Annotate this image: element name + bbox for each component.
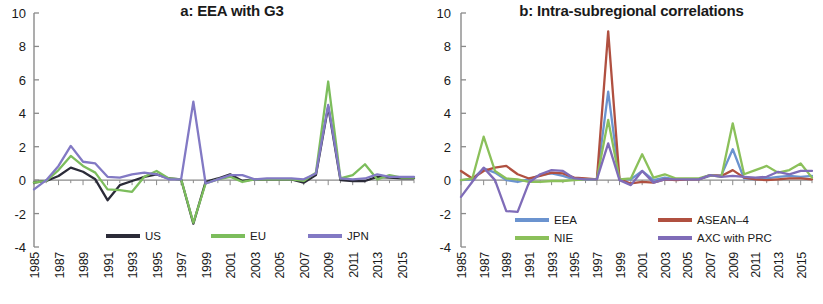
series-line-axc-with-prc	[461, 143, 812, 212]
x-tick-label: 1993	[126, 252, 140, 279]
y-tick-label: -4	[439, 240, 451, 255]
x-tick-label: 1995	[568, 252, 582, 279]
x-tick-label: 2001	[636, 252, 650, 279]
legend-item: NIE	[515, 232, 573, 244]
series-line-eu	[34, 82, 414, 223]
x-tick-label: 2009	[727, 252, 741, 279]
legend-swatch-line	[106, 234, 140, 238]
x-tick-label: 2007	[704, 252, 718, 279]
y-tick-label: 4	[444, 106, 451, 121]
x-tick-label: 2009	[322, 252, 336, 279]
legend-swatch-line	[515, 218, 549, 222]
panel-a-y-axis-labels: 1086420-2-4	[0, 0, 26, 260]
legend-item: JPN	[308, 230, 369, 242]
y-tick-label: 0	[19, 173, 26, 188]
panel-a-plot	[26, 5, 418, 255]
y-tick-label: 6	[19, 72, 26, 87]
legend-label: ASEAN–4	[697, 214, 749, 226]
x-tick-label: 1991	[523, 252, 537, 279]
legend-item: AXC with PRC	[658, 232, 772, 244]
x-tick-label: 2013	[772, 252, 786, 279]
x-tick-label: 2003	[249, 252, 263, 279]
legend-item: US	[106, 230, 161, 242]
legend-label: AXC with PRC	[697, 232, 772, 244]
x-tick-label: 1985	[28, 252, 42, 279]
x-tick-label: 2007	[298, 252, 312, 279]
legend-item: EU	[211, 230, 266, 242]
x-tick-label: 1993	[546, 252, 560, 279]
legend-item: ASEAN–4	[658, 214, 749, 226]
x-tick-label: 1995	[151, 252, 165, 279]
x-tick-label: 2003	[659, 252, 673, 279]
y-tick-label: -4	[14, 240, 26, 255]
panel-a-x-axis-labels: 1985198719891991199319951997199920012003…	[26, 252, 418, 304]
panel-a-legend: USEUJPN	[26, 226, 418, 248]
y-tick-label: -2	[14, 206, 26, 221]
x-tick-label: 1999	[200, 252, 214, 279]
y-tick-label: 10	[437, 6, 451, 21]
x-tick-label: 2015	[396, 252, 410, 279]
x-tick-label: 2011	[749, 252, 763, 278]
x-tick-label: 1989	[500, 252, 514, 279]
panel-b-x-axis-labels: 1985198719891991199319951997199920012003…	[453, 252, 816, 304]
x-tick-label: 2005	[273, 252, 287, 279]
y-tick-label: 10	[12, 6, 26, 21]
legend-label: JPN	[347, 230, 369, 242]
x-tick-label: 1989	[77, 252, 91, 279]
x-tick-label: 2001	[224, 252, 238, 279]
panel-b: b: Intra-subregional correlations 108642…	[420, 0, 823, 304]
x-tick-label: 1997	[591, 252, 605, 279]
legend-swatch-line	[211, 234, 245, 238]
y-tick-label: 2	[444, 139, 451, 154]
x-tick-label: 2015	[795, 252, 809, 279]
figure-root: a: EEA with G3 1086420-2-4 1985198719891…	[0, 0, 823, 304]
panel-b-legend: EEAASEAN–4NIEAXC with PRC	[453, 212, 816, 248]
y-tick-label: -2	[439, 206, 451, 221]
y-tick-label: 0	[444, 173, 451, 188]
legend-label: US	[145, 230, 161, 242]
series-line-asean-4	[461, 31, 812, 183]
y-tick-label: 8	[444, 39, 451, 54]
legend-label: NIE	[554, 232, 573, 244]
legend-label: EU	[250, 230, 266, 242]
x-tick-label: 2011	[347, 252, 361, 278]
y-tick-label: 2	[19, 139, 26, 154]
legend-swatch-line	[308, 234, 342, 238]
x-tick-label: 2005	[681, 252, 695, 279]
y-tick-label: 8	[19, 39, 26, 54]
panel-b-y-axis-labels: 1086420-2-4	[425, 0, 451, 260]
x-tick-label: 2013	[371, 252, 385, 279]
legend-label: EEA	[554, 214, 577, 226]
y-tick-label: 4	[19, 106, 26, 121]
x-tick-label: 1987	[53, 252, 67, 279]
x-tick-label: 1999	[614, 252, 628, 279]
x-tick-label: 1987	[478, 252, 492, 279]
legend-swatch-line	[515, 236, 549, 240]
legend-swatch-line	[658, 236, 692, 240]
panel-a: a: EEA with G3 1086420-2-4 1985198719891…	[0, 0, 420, 304]
legend-item: EEA	[515, 214, 577, 226]
x-tick-label: 1991	[102, 252, 116, 279]
y-tick-label: 6	[444, 72, 451, 87]
legend-swatch-line	[658, 218, 692, 222]
x-tick-label: 1997	[175, 252, 189, 279]
x-tick-label: 1985	[455, 252, 469, 279]
series-line-us	[34, 107, 414, 224]
